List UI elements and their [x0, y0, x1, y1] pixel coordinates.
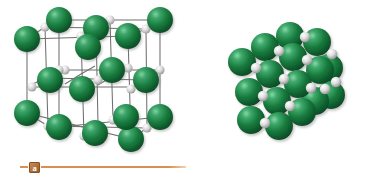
panel-b-space-filling: b [189, 0, 378, 184]
ion-sphere-small [327, 49, 337, 59]
caption-rule-left-stub-a [20, 166, 28, 168]
ion-sphere [251, 33, 279, 61]
ion-sphere-small [300, 32, 310, 42]
caption-rule-a: a [20, 160, 186, 174]
figure-root: a [0, 0, 378, 184]
caption-rule-line-a [41, 166, 186, 168]
ion-sphere-small [260, 118, 270, 128]
panel-a-ball-and-stick: a [0, 0, 189, 184]
space-filling-cluster [228, 22, 345, 140]
ion-sphere-small [302, 55, 312, 65]
ion-sphere-small [258, 91, 268, 101]
ion-sphere-small [279, 74, 289, 84]
ion-sphere-small [285, 101, 295, 111]
ion-sphere [235, 78, 263, 106]
ion-sphere-small [274, 46, 284, 56]
ion-sphere [263, 87, 291, 115]
ion-sphere-small [306, 83, 316, 93]
ion-sphere-small [331, 77, 341, 87]
ion-sphere-small [251, 63, 261, 73]
panel-label-chip-a: a [29, 162, 40, 173]
lattice-ball-and-stick-diagram [0, 0, 189, 158]
lattice-space-filling-diagram [189, 0, 378, 158]
ion-sphere-small [320, 84, 330, 94]
ion-sphere [228, 48, 256, 76]
ion-sphere [303, 28, 331, 56]
